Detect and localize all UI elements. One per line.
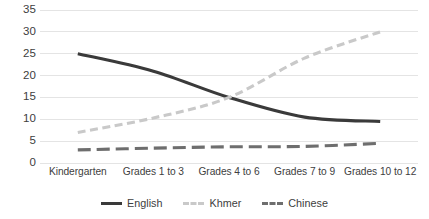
legend-item-chinese[interactable]: Chinese — [262, 197, 328, 209]
series-line-english — [78, 54, 380, 122]
series-line-khmer — [78, 32, 380, 133]
y-tick-label: 30 — [2, 26, 36, 38]
x-tick-label: Kindergarten — [40, 165, 116, 185]
y-tick-label: 10 — [2, 113, 36, 125]
x-tick-label: Grades 1 to 3 — [116, 165, 192, 185]
gridlines — [40, 10, 418, 163]
y-tick-label: 5 — [2, 135, 36, 147]
legend-item-english[interactable]: English — [101, 197, 162, 209]
y-axis: 35302520151050 — [0, 0, 36, 175]
legend-label: Chinese — [288, 197, 328, 209]
y-tick-label: 35 — [2, 4, 36, 16]
y-tick-label: 0 — [2, 157, 36, 169]
x-tick-label: Grades 7 to 9 — [267, 165, 343, 185]
series-lines — [78, 32, 380, 150]
y-tick-label: 25 — [2, 48, 36, 60]
x-tick-label: Grades 10 to 12 — [342, 165, 418, 185]
legend-item-khmer[interactable]: Khmer — [183, 197, 241, 209]
legend-swatch-icon — [262, 202, 283, 205]
series-line-chinese — [78, 143, 380, 150]
y-tick-label: 20 — [2, 70, 36, 82]
x-axis: KindergartenGrades 1 to 3Grades 4 to 6Gr… — [40, 165, 418, 185]
x-tick-label: Grades 4 to 6 — [191, 165, 267, 185]
chart-legend: EnglishKhmerChinese — [0, 192, 429, 214]
plot-area — [40, 10, 418, 163]
line-chart: 35302520151050 KindergartenGrades 1 to 3… — [0, 0, 429, 219]
legend-swatch-icon — [183, 202, 204, 205]
y-tick-label: 15 — [2, 91, 36, 103]
legend-label: English — [127, 197, 162, 209]
legend-swatch-icon — [101, 202, 122, 205]
plot-svg — [40, 10, 418, 163]
legend-label: Khmer — [209, 197, 241, 209]
